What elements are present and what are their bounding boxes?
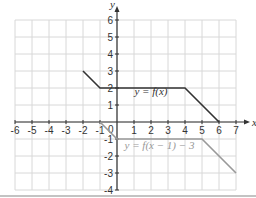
y-tick-label: 4 xyxy=(107,49,113,60)
y-tick-label: 3 xyxy=(107,66,113,77)
x-tick-label: 7 xyxy=(233,125,239,136)
x-tick-label: -4 xyxy=(45,125,54,136)
x-tick-label: 5 xyxy=(199,125,205,136)
function-graph: xy-6-5-4-3-2-11234567654321-1-2-3-40y = … xyxy=(0,0,256,198)
x-tick-label: 1 xyxy=(131,125,137,136)
x-tick-label: 6 xyxy=(216,125,222,136)
x-tick-label: 2 xyxy=(148,125,154,136)
x-tick-label: 3 xyxy=(165,125,171,136)
y-tick-label: 6 xyxy=(107,15,113,26)
x-tick-label: -3 xyxy=(62,125,71,136)
series-label-2: y = f(x − 1) − 3 xyxy=(124,139,195,152)
y-axis-arrow-icon xyxy=(115,6,120,12)
y-tick-label: 1 xyxy=(107,100,113,111)
x-tick-label: -6 xyxy=(11,125,20,136)
x-axis-arrow-icon xyxy=(244,120,250,125)
y-tick-label: -2 xyxy=(104,151,113,162)
series-label-1: y = f(x) xyxy=(133,85,167,98)
y-tick-label: -3 xyxy=(104,168,113,179)
x-tick-label: 4 xyxy=(182,125,188,136)
x-tick-label: -2 xyxy=(79,125,88,136)
x-tick-label: -5 xyxy=(28,125,37,136)
y-tick-label: -4 xyxy=(104,185,113,196)
y-tick-label: 5 xyxy=(107,32,113,43)
x-axis-label: x xyxy=(251,116,256,128)
y-axis-label: y xyxy=(109,0,115,10)
